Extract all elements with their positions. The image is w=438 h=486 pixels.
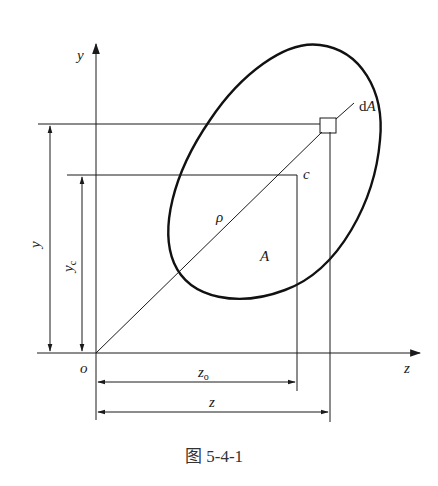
area-element-leader — [336, 103, 354, 119]
section-centroid-diagram: y z o c ρ A dA y yc zo z 图 5-4-1 — [0, 0, 438, 486]
yc-dimension-label: yc — [60, 260, 78, 274]
area-boundary — [168, 45, 380, 299]
centroid-label: c — [303, 166, 310, 182]
z-axis-label: z — [403, 360, 410, 376]
y-axis-label: y — [75, 47, 84, 63]
y-dimension-label: y — [27, 241, 43, 250]
radius-label: ρ — [215, 209, 223, 225]
area-element-label: dA — [359, 98, 377, 114]
z-dimension-label: z — [208, 394, 215, 410]
z0-dimension-label: zo — [197, 364, 209, 382]
area-element-square — [320, 118, 336, 133]
figure-caption: 图 5-4-1 — [185, 447, 243, 466]
origin-label: o — [80, 360, 88, 376]
area-label: A — [259, 248, 270, 264]
radius-line — [96, 132, 322, 353]
